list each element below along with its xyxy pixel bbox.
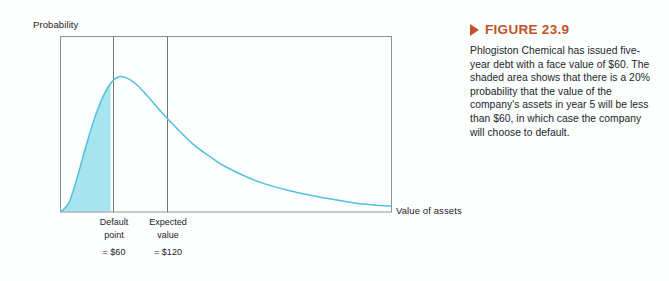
expected-value-line2: value [137, 229, 199, 242]
figure-header: FIGURE 23.9 [470, 22, 652, 37]
expected-value-value: = $120 [137, 246, 199, 259]
tick-label-expected-value: Expected value = $120 [137, 216, 199, 259]
triangle-right-icon [470, 24, 479, 36]
figure-caption-text: Phlogiston Chemical has issued five-year… [470, 44, 652, 139]
tick-label-default-point: Default point = $60 [83, 216, 145, 259]
probability-distribution-chart [0, 0, 420, 281]
x-axis-label: Value of assets [396, 205, 462, 216]
default-point-value: = $60 [83, 246, 145, 259]
chart-panel: Probability Default point = $60 Expected… [0, 0, 420, 281]
default-point-line1: Default [83, 216, 145, 229]
figure-caption-panel: FIGURE 23.9 Phlogiston Chemical has issu… [470, 22, 652, 139]
expected-value-line1: Expected [137, 216, 199, 229]
figure-title: FIGURE 23.9 [485, 22, 569, 37]
default-point-line2: point [83, 229, 145, 242]
figure-page: Probability Default point = $60 Expected… [0, 0, 669, 281]
